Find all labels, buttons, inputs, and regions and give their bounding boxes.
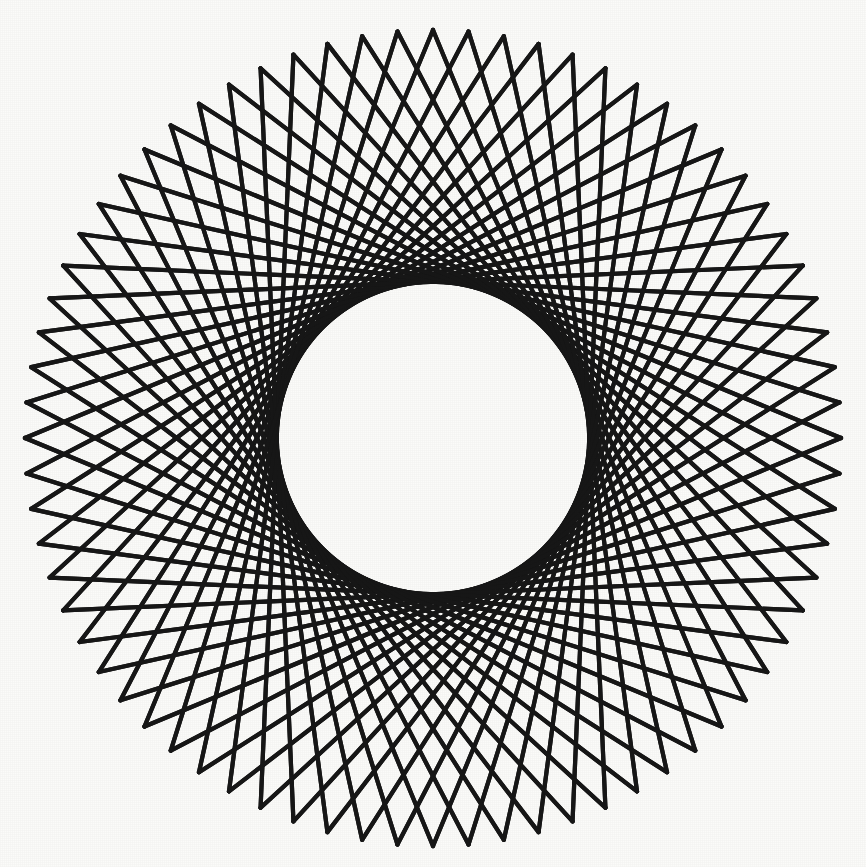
string-art-figure — [0, 0, 866, 867]
artwork-canvas: Radial Chord String-Art Mandala — [0, 0, 866, 867]
background-rect — [0, 0, 866, 867]
